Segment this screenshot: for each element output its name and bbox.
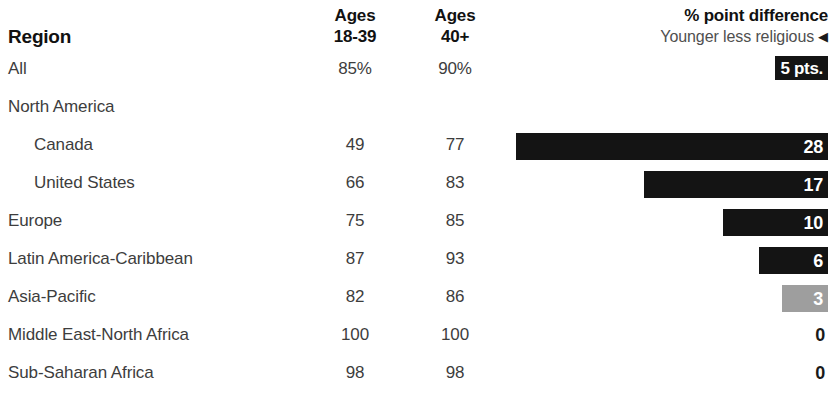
difference-bar: 3 <box>782 285 828 312</box>
bar-area: 10 <box>510 204 834 242</box>
bar-area: 28 <box>510 128 834 166</box>
row-label: All <box>8 59 27 79</box>
row-label: North America <box>8 97 114 117</box>
difference-bar: 6 <box>759 247 828 274</box>
bar-area: 5 pts. <box>510 52 834 90</box>
difference-bar: 28 <box>516 133 828 160</box>
difference-bar-value: 17 <box>804 176 823 194</box>
difference-bar-value: 28 <box>804 138 823 156</box>
bar-area: 0 <box>510 356 834 394</box>
table-row: United States668317 <box>0 166 834 204</box>
row-label: Latin America-Caribbean <box>8 249 193 269</box>
table-row: Latin America-Caribbean87936 <box>0 242 834 280</box>
religion-age-gap-chart: Region Ages 18-39 Ages 40+ % point diffe… <box>0 0 834 408</box>
cell-ages-40-plus: 98 <box>395 363 515 383</box>
cell-ages-40-plus: 93 <box>395 249 515 269</box>
bar-area: 3 <box>510 280 834 318</box>
column-header-ages-40-plus-line1: Ages <box>395 5 515 26</box>
column-header-point-difference: % point difference Younger less religiou… <box>660 5 828 47</box>
cell-ages-40-plus: 90% <box>395 59 515 79</box>
table-body: All85%90%5 pts.North AmericaCanada497728… <box>0 52 834 394</box>
cell-ages-40-plus: 86 <box>395 287 515 307</box>
difference-value: 0 <box>815 363 825 384</box>
cell-ages-40-plus: 83 <box>395 173 515 193</box>
table-row: Canada497728 <box>0 128 834 166</box>
table-row: All85%90%5 pts. <box>0 52 834 90</box>
column-header-region: Region <box>8 26 71 48</box>
cell-ages-40-plus: 100 <box>395 325 515 345</box>
row-label: Asia-Pacific <box>8 287 96 307</box>
column-header-ages-40-plus: Ages 40+ <box>395 5 515 47</box>
cell-ages-40-plus: 85 <box>395 211 515 231</box>
difference-value: 0 <box>815 325 825 346</box>
difference-bar-value: 10 <box>804 214 823 232</box>
row-label: Canada <box>34 135 93 155</box>
point-difference-subtitle: Younger less religious <box>660 28 814 45</box>
point-difference-subtitle-wrap: Younger less religious◀ <box>660 26 828 47</box>
row-label: Middle East-North Africa <box>8 325 189 345</box>
bar-area: 6 <box>510 242 834 280</box>
table-row: North America <box>0 90 834 128</box>
table-row: Sub-Saharan Africa98980 <box>0 356 834 394</box>
row-label: Sub-Saharan Africa <box>8 363 154 383</box>
table-header: Region Ages 18-39 Ages 40+ % point diffe… <box>0 0 834 52</box>
row-label: United States <box>34 173 135 193</box>
difference-bar-value: 3 <box>813 290 823 308</box>
bar-area: 17 <box>510 166 834 204</box>
difference-bar-value: 5 pts. <box>780 60 823 77</box>
difference-bar: 5 pts. <box>775 56 828 80</box>
cell-ages-40-plus: 77 <box>395 135 515 155</box>
difference-bar: 10 <box>723 209 828 236</box>
table-row: Middle East-North Africa1001000 <box>0 318 834 356</box>
point-difference-title: % point difference <box>660 5 828 26</box>
bar-area <box>510 90 834 128</box>
table-row: Europe758510 <box>0 204 834 242</box>
bar-area: 0 <box>510 318 834 356</box>
table-row: Asia-Pacific82863 <box>0 280 834 318</box>
difference-bar-value: 6 <box>813 252 823 270</box>
difference-bar: 17 <box>644 171 828 198</box>
column-header-ages-40-plus-line2: 40+ <box>395 26 515 47</box>
row-label: Europe <box>8 211 62 231</box>
left-triangle-arrow-icon: ◀ <box>818 26 828 47</box>
